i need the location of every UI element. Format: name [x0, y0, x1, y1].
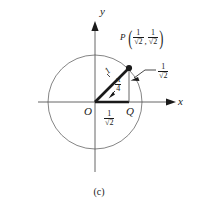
leader-line-right	[134, 70, 156, 78]
vertical-leg-length-label: 1 √2	[158, 63, 168, 81]
p-x-coordinate-fraction: 1 √2	[133, 29, 143, 47]
angle-measure-label: π 4	[114, 75, 123, 94]
segment-op-radius	[95, 68, 129, 102]
origin-label: O	[84, 106, 92, 117]
point-p-coordinates-label: P ( 1 √2 , 1 √2 )	[120, 29, 165, 47]
angle-denominator: 4	[115, 84, 121, 93]
x-axis-label: x	[178, 96, 183, 107]
horizontal-leg-length-label: 1 √2	[104, 110, 114, 128]
vertical-leg-fraction: 1 √2	[158, 63, 168, 81]
paren-open: (	[128, 30, 132, 46]
horizontal-leg-denominator: √2	[104, 118, 114, 127]
p-y-coordinate-fraction: 1 √2	[148, 29, 158, 47]
p-y-denominator: √2	[148, 37, 158, 46]
coordinate-separator: ,	[145, 37, 147, 47]
point-p-marker	[126, 65, 132, 71]
point-p-name: P	[120, 33, 126, 42]
vertical-leg-numerator: 1	[159, 63, 167, 71]
figure-caption: (c)	[0, 186, 198, 197]
p-y-numerator: 1	[149, 29, 157, 37]
horizontal-leg-numerator: 1	[105, 110, 113, 118]
paren-close: )	[159, 30, 163, 46]
p-x-numerator: 1	[134, 29, 142, 37]
horizontal-leg-fraction: 1 √2	[104, 110, 114, 128]
p-x-denominator: √2	[133, 37, 143, 46]
angle-numerator: π	[114, 75, 123, 84]
y-axis-arrowhead	[91, 21, 98, 31]
vertical-leg-denominator: √2	[158, 71, 168, 80]
angle-fraction: π 4	[114, 75, 123, 94]
unit-circle-figure	[0, 0, 198, 212]
point-q-label: Q	[126, 106, 134, 117]
x-axis-arrowhead	[166, 98, 176, 105]
y-axis-label: y	[100, 6, 105, 17]
